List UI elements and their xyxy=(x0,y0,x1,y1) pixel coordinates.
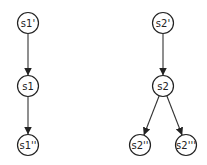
node-label: s1 xyxy=(22,81,34,92)
node-label: s1' xyxy=(21,18,35,29)
edge-arrow xyxy=(144,96,159,135)
node-s2p: s2' xyxy=(153,13,174,34)
node-s1pp: s1'' xyxy=(18,135,39,156)
node-s1: s1 xyxy=(18,76,39,97)
node-s2pp: s2'' xyxy=(130,135,151,156)
node-label: s2' xyxy=(156,18,170,29)
node-s2ppp: s2''' xyxy=(176,135,197,156)
node-label: s2'' xyxy=(131,140,148,151)
node-s1p: s1' xyxy=(18,13,39,34)
edge-arrow xyxy=(167,96,182,135)
tree-diagram: s1's1s1''s2's2s2''s2''' xyxy=(0,0,207,165)
node-label: s2 xyxy=(157,81,169,92)
node-s2: s2 xyxy=(153,76,174,97)
node-label: s2''' xyxy=(176,140,196,151)
node-label: s1'' xyxy=(19,140,36,151)
nodes: s1's1s1''s2's2s2''s2''' xyxy=(18,13,197,156)
